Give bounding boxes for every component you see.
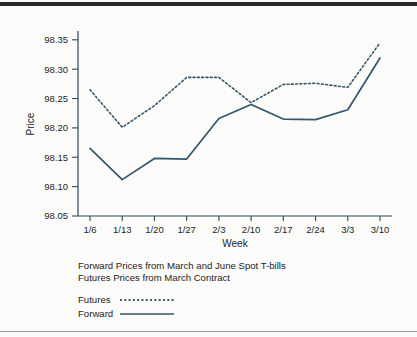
y-tick-label: 98.35 (44, 34, 68, 45)
chart-legend: Futures Forward (78, 294, 174, 319)
x-tick-label: 3/3 (341, 224, 354, 235)
x-tick-label: 2/10 (242, 224, 261, 235)
series-futures (90, 43, 380, 128)
legend-label-forward: Forward (78, 308, 113, 319)
x-tick-label: 3/10 (371, 224, 390, 235)
series-forward (90, 58, 380, 180)
x-axis-tick-labels: 1/61/131/201/272/32/102/172/243/33/10 (83, 224, 389, 235)
x-tick-label: 2/17 (274, 224, 293, 235)
y-tick-label: 98.15 (44, 152, 68, 163)
x-tick-label: 2/3 (212, 224, 225, 235)
x-tick-label: 2/24 (306, 224, 325, 235)
y-tick-label: 98.25 (44, 93, 68, 104)
caption-line-2: Futures Prices from March Contract (78, 272, 230, 283)
x-tick-label: 1/6 (83, 224, 96, 235)
x-axis-title: Week (222, 238, 248, 249)
line-chart: 98.0598.1098.1598.2098.2598.3098.35 1/61… (0, 6, 417, 331)
chart-series-group (90, 43, 380, 180)
y-tick-label: 98.30 (44, 64, 68, 75)
chart-figure: 98.0598.1098.1598.2098.2598.3098.35 1/61… (0, 6, 417, 331)
caption-line-1: Forward Prices from March and June Spot … (78, 260, 286, 271)
figure-page: 98.0598.1098.1598.2098.2598.3098.35 1/61… (0, 0, 417, 337)
y-axis-tick-labels: 98.0598.1098.1598.2098.2598.3098.35 (44, 34, 68, 221)
y-axis-ticks (72, 40, 78, 216)
x-axis-ticks (90, 216, 380, 221)
y-tick-label: 98.20 (44, 122, 68, 133)
chart-axes (78, 31, 392, 216)
x-tick-label: 1/13 (113, 224, 132, 235)
x-tick-label: 1/27 (177, 224, 196, 235)
y-axis-title: Price (25, 112, 36, 135)
x-tick-label: 1/20 (145, 224, 164, 235)
y-tick-label: 98.10 (44, 181, 68, 192)
bottom-rule-divider (0, 331, 417, 332)
y-tick-label: 98.05 (44, 210, 68, 221)
legend-label-futures: Futures (78, 294, 111, 305)
